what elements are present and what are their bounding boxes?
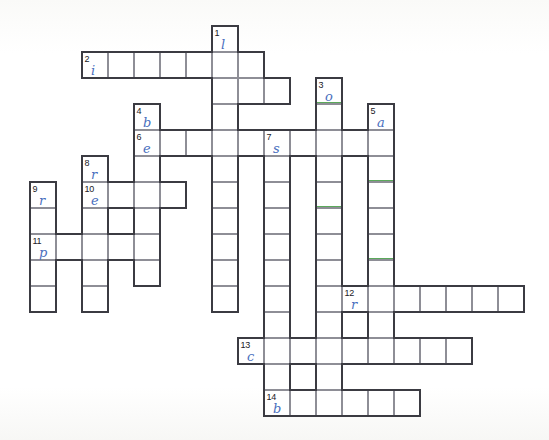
crossword-cell[interactable] <box>264 156 290 182</box>
handwritten-letter[interactable]: e <box>143 142 151 155</box>
handwritten-letter[interactable]: r <box>39 194 45 207</box>
crossword-cell[interactable] <box>472 286 498 312</box>
crossword-cell[interactable] <box>108 182 134 208</box>
crossword-cell[interactable] <box>316 260 342 286</box>
crossword-cell[interactable] <box>368 260 394 286</box>
crossword-cell[interactable] <box>212 260 238 286</box>
crossword-cell[interactable] <box>238 52 264 78</box>
crossword-cell[interactable] <box>316 312 342 338</box>
handwritten-letter[interactable]: b <box>143 116 151 129</box>
crossword-cell[interactable] <box>368 338 394 364</box>
handwritten-letter[interactable]: c <box>247 350 254 363</box>
crossword-cell[interactable] <box>368 234 394 260</box>
crossword-cell[interactable] <box>368 390 394 416</box>
crossword-cell[interactable] <box>316 390 342 416</box>
crossword-cell[interactable] <box>134 52 160 78</box>
crossword-cell[interactable] <box>134 260 160 286</box>
crossword-cell[interactable] <box>446 286 472 312</box>
crossword-cell[interactable] <box>212 78 238 104</box>
handwritten-letter[interactable]: o <box>325 90 333 103</box>
crossword-cell[interactable] <box>368 156 394 182</box>
crossword-cell[interactable] <box>368 182 394 208</box>
crossword-cell[interactable] <box>394 390 420 416</box>
crossword-cell[interactable] <box>160 182 186 208</box>
handwritten-letter[interactable]: r <box>91 168 97 181</box>
grid-outline-segment <box>263 285 265 313</box>
crossword-cell[interactable] <box>212 156 238 182</box>
crossword-cell[interactable] <box>316 234 342 260</box>
handwritten-letter[interactable]: s <box>273 142 280 155</box>
handwritten-letter[interactable]: r <box>351 298 357 311</box>
crossword-cell[interactable] <box>82 208 108 234</box>
crossword-cell[interactable] <box>316 338 342 364</box>
crossword-cell[interactable] <box>134 208 160 234</box>
crossword-cell[interactable] <box>82 234 108 260</box>
crossword-cell[interactable] <box>420 286 446 312</box>
crossword-cell[interactable] <box>264 338 290 364</box>
handwritten-letter[interactable]: a <box>377 116 385 129</box>
crossword-cell[interactable] <box>212 234 238 260</box>
grid-outline-segment <box>133 51 161 53</box>
crossword-cell[interactable] <box>316 130 342 156</box>
crossword-cell[interactable] <box>368 312 394 338</box>
crossword-cell[interactable] <box>264 364 290 390</box>
crossword-cell[interactable] <box>394 286 420 312</box>
crossword-cell[interactable] <box>316 364 342 390</box>
crossword-cell[interactable] <box>446 338 472 364</box>
crossword-cell[interactable] <box>420 338 446 364</box>
crossword-cell[interactable] <box>394 338 420 364</box>
handwritten-letter[interactable]: i <box>91 64 95 77</box>
crossword-cell[interactable] <box>316 156 342 182</box>
crossword-cell[interactable] <box>186 52 212 78</box>
crossword-cell[interactable] <box>316 208 342 234</box>
crossword-cell[interactable] <box>342 130 368 156</box>
handwritten-letter[interactable]: e <box>91 194 99 207</box>
crossword-cell[interactable] <box>82 260 108 286</box>
crossword-cell[interactable] <box>212 52 238 78</box>
crossword-cell[interactable] <box>30 260 56 286</box>
crossword-cell[interactable] <box>134 234 160 260</box>
crossword-cell[interactable] <box>316 286 342 312</box>
crossword-cell[interactable] <box>212 286 238 312</box>
crossword-cell[interactable] <box>160 52 186 78</box>
crossword-cell[interactable] <box>212 104 238 130</box>
crossword-cell[interactable] <box>238 78 264 104</box>
crossword-cell[interactable] <box>290 390 316 416</box>
crossword-cell[interactable] <box>316 182 342 208</box>
handwritten-letter[interactable]: l <box>221 38 225 51</box>
crossword-cell[interactable] <box>108 234 134 260</box>
crossword-cell[interactable] <box>290 338 316 364</box>
crossword-cell[interactable] <box>134 156 160 182</box>
crossword-cell[interactable] <box>212 208 238 234</box>
crossword-grid[interactable]: 1l2i3o4b5a6e7s8r9r10e11p12r13c14b <box>0 0 549 440</box>
crossword-cell[interactable] <box>264 78 290 104</box>
crossword-cell[interactable] <box>82 286 108 312</box>
crossword-cell[interactable] <box>264 286 290 312</box>
crossword-cell[interactable] <box>498 286 524 312</box>
crossword-cell[interactable] <box>342 338 368 364</box>
handwritten-letter[interactable]: p <box>39 246 47 259</box>
crossword-cell[interactable] <box>30 286 56 312</box>
crossword-cell[interactable] <box>160 130 186 156</box>
crossword-cell[interactable] <box>316 104 342 130</box>
crossword-cell[interactable] <box>264 260 290 286</box>
crossword-cell[interactable] <box>264 234 290 260</box>
crossword-cell[interactable] <box>212 130 238 156</box>
grid-outline-segment <box>367 363 395 365</box>
crossword-cell[interactable] <box>290 130 316 156</box>
crossword-cell[interactable] <box>238 130 264 156</box>
crossword-cell[interactable] <box>30 208 56 234</box>
crossword-cell[interactable] <box>186 130 212 156</box>
crossword-cell[interactable] <box>264 182 290 208</box>
crossword-cell[interactable] <box>56 234 82 260</box>
crossword-cell[interactable] <box>264 208 290 234</box>
crossword-cell[interactable] <box>264 312 290 338</box>
crossword-cell[interactable] <box>368 208 394 234</box>
crossword-cell[interactable] <box>342 390 368 416</box>
crossword-cell[interactable] <box>212 182 238 208</box>
crossword-cell[interactable] <box>368 286 394 312</box>
crossword-cell[interactable] <box>368 130 394 156</box>
crossword-cell[interactable] <box>134 182 160 208</box>
crossword-cell[interactable] <box>108 52 134 78</box>
handwritten-letter[interactable]: b <box>273 402 281 415</box>
